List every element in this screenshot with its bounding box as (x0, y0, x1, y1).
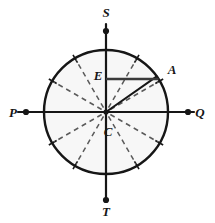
label-q: Q (195, 105, 205, 120)
label-c: C (104, 124, 113, 139)
label-p: P (9, 105, 18, 120)
center-point-c (103, 109, 108, 114)
label-e: E (93, 68, 103, 83)
geometry-figure: S T P Q C E A (0, 0, 215, 223)
label-t: T (102, 204, 111, 219)
label-s: S (102, 5, 109, 20)
dot-p (23, 109, 29, 115)
circle-diagram-canvas: S T P Q C E A (0, 0, 215, 223)
dot-s (103, 28, 109, 34)
label-a: A (167, 62, 177, 77)
dot-t (103, 197, 109, 203)
dot-q (185, 109, 191, 115)
